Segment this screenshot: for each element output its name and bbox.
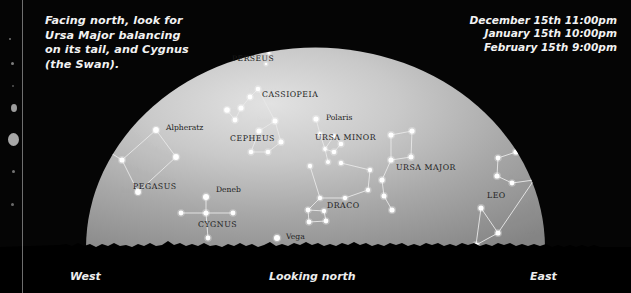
star: [409, 155, 414, 160]
star: [339, 161, 343, 165]
star: [532, 178, 537, 183]
star: [119, 157, 124, 162]
star: [233, 118, 238, 123]
star: [203, 210, 208, 215]
star: [496, 156, 501, 161]
star: [388, 157, 393, 162]
star-glow: [530, 176, 538, 184]
star-chart: PERSEUSCASSIOPEIACEPHEUSURSA MINORURSA M…: [0, 0, 631, 293]
star: [206, 236, 211, 241]
star: [273, 119, 278, 124]
star: [323, 147, 327, 151]
star: [224, 107, 230, 113]
film-speck: [8, 133, 19, 146]
star: [307, 220, 312, 225]
film-speck: [12, 170, 15, 173]
star: [388, 132, 393, 137]
observation-time-line: January 15th 10:00pm: [469, 27, 617, 40]
film-speck: [12, 85, 14, 87]
film-speck: [11, 203, 14, 206]
star: [203, 194, 209, 200]
star: [274, 235, 280, 241]
star-label: Alpheratz: [165, 123, 203, 132]
constellation-label: DRACO: [327, 201, 360, 210]
star: [173, 154, 179, 160]
star: [308, 164, 312, 168]
star: [256, 128, 261, 133]
constellation-label: URSA MINOR: [315, 133, 377, 142]
star-label: Polaris: [326, 113, 352, 122]
compass-label-east: East: [530, 270, 557, 283]
star: [306, 208, 311, 213]
star: [382, 194, 387, 199]
star: [332, 150, 337, 155]
star: [231, 211, 236, 216]
star: [339, 142, 344, 147]
horizon-silhouette: [0, 241, 631, 293]
left-margin-rule: [22, 0, 23, 293]
star: [379, 177, 384, 182]
star: [478, 205, 483, 210]
star: [313, 116, 318, 121]
star: [495, 230, 500, 235]
star: [409, 128, 414, 133]
constellation-label: CASSIOPEIA: [262, 90, 318, 99]
star: [513, 149, 518, 154]
constellation-label: LEO: [487, 191, 506, 200]
star: [343, 196, 347, 200]
constellation-label: CYGNUS: [198, 220, 237, 229]
star: [510, 181, 515, 186]
observation-times: December 15th 11:00pm January 15th 10:00…: [469, 14, 617, 54]
star: [324, 219, 329, 224]
star: [279, 140, 284, 145]
film-speck: [11, 104, 17, 112]
constellation-label: PERSEUS: [232, 54, 274, 63]
star: [494, 173, 499, 178]
star: [153, 127, 159, 133]
film-speck: [11, 62, 14, 65]
star: [249, 150, 254, 155]
star: [266, 150, 271, 155]
star: [368, 168, 372, 172]
star: [265, 63, 268, 66]
observation-time-line: December 15th 11:00pm: [469, 14, 617, 27]
star: [256, 87, 261, 92]
star-label: Deneb: [216, 185, 241, 194]
star: [248, 95, 253, 100]
compass-label-west: West: [70, 270, 101, 283]
star: [366, 188, 370, 192]
star: [179, 211, 184, 216]
star: [326, 160, 330, 164]
star: [389, 207, 394, 212]
star: [318, 196, 322, 200]
sky-dome: [86, 48, 545, 248]
film-speck: [9, 38, 11, 40]
constellation-label: PEGASUS: [133, 182, 177, 191]
star: [104, 148, 109, 153]
star-glow: [102, 146, 110, 154]
star: [238, 105, 243, 110]
observation-time-line: February 15th 9:00pm: [469, 41, 617, 54]
viewing-note: Facing north, look for Ursa Major balanc…: [45, 14, 235, 72]
star-label: Vega: [285, 232, 305, 241]
compass-label-center: Looking north: [269, 270, 356, 283]
constellation-label: CEPHEUS: [230, 134, 275, 143]
star: [322, 209, 326, 213]
constellation-label: URSA MAJOR: [396, 163, 457, 172]
